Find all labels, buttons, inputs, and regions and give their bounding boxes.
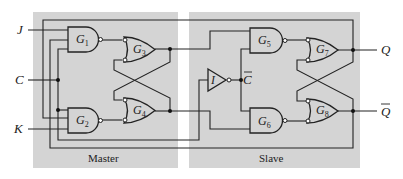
svg-text:Q: Q (381, 104, 391, 119)
junction-c2 (56, 108, 60, 112)
c-bar-label: C (243, 72, 252, 87)
svg-text:C: C (243, 72, 252, 87)
output-q-label: Q (381, 42, 391, 57)
input-j-label: J (17, 22, 24, 37)
master-caption: Master (88, 152, 119, 164)
input-k-label: K (13, 121, 24, 136)
slave-caption: Slave (259, 152, 284, 164)
junction-c (56, 78, 60, 82)
junction-q-bar (351, 109, 355, 113)
junction-g4-out (168, 109, 172, 113)
jk-flip-flop-diagram: J C K G1 (0, 0, 403, 179)
master-panel (33, 12, 178, 168)
junction-q (351, 48, 355, 52)
junction-g3-out (168, 47, 172, 51)
input-c-label: C (15, 72, 24, 87)
output-q-bar-label: Q (381, 104, 391, 119)
